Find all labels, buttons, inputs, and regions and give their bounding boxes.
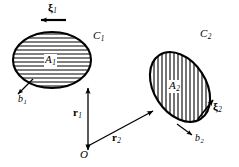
area-2-label: A2 (168, 80, 181, 93)
figure-diagram: ξ1 C1 A1 b1 C2 A2 ξ2 b2 r1 r2 O (0, 0, 239, 167)
thickness-1-label: b1 (18, 94, 27, 105)
xi-1-label: ξ1 (48, 2, 57, 15)
vector-r2-label: r2 (112, 132, 121, 145)
xi-2-label: ξ2 (213, 101, 222, 114)
contour-1-label: C1 (93, 30, 104, 43)
vector-r1-label: r1 (73, 107, 82, 120)
origin-label: O (80, 149, 88, 160)
contour-2-label: C2 (200, 28, 211, 41)
area-1-label: A1 (44, 54, 57, 67)
b-2-arrow (177, 124, 192, 135)
thickness-2-label: b2 (195, 133, 204, 144)
